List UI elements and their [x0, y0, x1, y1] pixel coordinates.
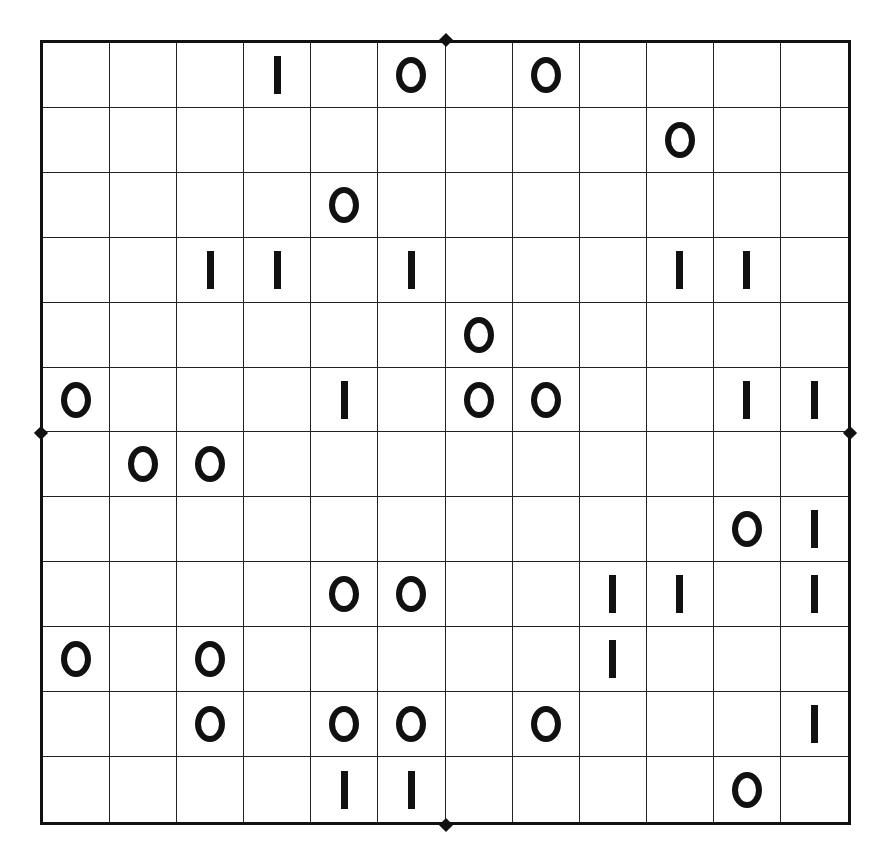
grid-cell-r2-c6[interactable] — [446, 173, 513, 238]
grid-cell-r11-c3[interactable] — [244, 757, 311, 822]
grid-cell-r11-c5[interactable] — [378, 757, 445, 822]
grid-cell-r5-c10[interactable] — [714, 368, 781, 433]
grid-cell-r8-c7[interactable] — [513, 562, 580, 627]
grid-cell-r1-c1[interactable] — [110, 108, 177, 173]
grid-cell-r0-c1[interactable] — [110, 43, 177, 108]
grid-cell-r9-c3[interactable] — [244, 627, 311, 692]
grid-cell-r1-c11[interactable] — [781, 108, 848, 173]
grid-cell-r6-c10[interactable] — [714, 432, 781, 497]
grid-cell-r11-c1[interactable] — [110, 757, 177, 822]
grid-cell-r10-c0[interactable] — [43, 692, 110, 757]
grid-cell-r8-c9[interactable] — [647, 562, 714, 627]
grid-cell-r7-c0[interactable] — [43, 497, 110, 562]
grid-cell-r9-c8[interactable] — [580, 627, 647, 692]
grid-cell-r0-c0[interactable] — [43, 43, 110, 108]
grid-cell-r8-c0[interactable] — [43, 562, 110, 627]
grid-cell-r3-c3[interactable] — [244, 238, 311, 303]
grid-cell-r0-c4[interactable] — [311, 43, 378, 108]
grid-cell-r7-c6[interactable] — [446, 497, 513, 562]
grid-cell-r4-c5[interactable] — [378, 303, 445, 368]
grid-cell-r3-c5[interactable] — [378, 238, 445, 303]
grid-cell-r4-c4[interactable] — [311, 303, 378, 368]
grid-cell-r0-c7[interactable] — [513, 43, 580, 108]
grid-cell-r10-c4[interactable] — [311, 692, 378, 757]
grid-cell-r1-c3[interactable] — [244, 108, 311, 173]
grid-cell-r6-c7[interactable] — [513, 432, 580, 497]
grid-cell-r2-c0[interactable] — [43, 173, 110, 238]
grid-cell-r10-c3[interactable] — [244, 692, 311, 757]
grid-cell-r4-c3[interactable] — [244, 303, 311, 368]
grid-cell-r6-c6[interactable] — [446, 432, 513, 497]
grid-cell-r1-c10[interactable] — [714, 108, 781, 173]
grid-cell-r3-c6[interactable] — [446, 238, 513, 303]
grid-cell-r8-c10[interactable] — [714, 562, 781, 627]
grid-cell-r10-c7[interactable] — [513, 692, 580, 757]
grid-cell-r1-c4[interactable] — [311, 108, 378, 173]
grid-cell-r10-c6[interactable] — [446, 692, 513, 757]
grid-cell-r2-c10[interactable] — [714, 173, 781, 238]
grid-cell-r4-c10[interactable] — [714, 303, 781, 368]
grid-cell-r6-c3[interactable] — [244, 432, 311, 497]
grid-cell-r9-c6[interactable] — [446, 627, 513, 692]
grid-cell-r1-c2[interactable] — [177, 108, 244, 173]
grid-cell-r5-c6[interactable] — [446, 368, 513, 433]
grid-cell-r2-c11[interactable] — [781, 173, 848, 238]
grid-cell-r5-c2[interactable] — [177, 368, 244, 433]
grid-cell-r8-c4[interactable] — [311, 562, 378, 627]
grid-cell-r9-c11[interactable] — [781, 627, 848, 692]
grid-cell-r5-c1[interactable] — [110, 368, 177, 433]
grid-cell-r5-c0[interactable] — [43, 368, 110, 433]
grid-cell-r2-c9[interactable] — [647, 173, 714, 238]
grid-cell-r0-c8[interactable] — [580, 43, 647, 108]
grid-cell-r5-c3[interactable] — [244, 368, 311, 433]
grid-cell-r4-c1[interactable] — [110, 303, 177, 368]
grid-cell-r6-c9[interactable] — [647, 432, 714, 497]
grid-cell-r11-c2[interactable] — [177, 757, 244, 822]
grid-cell-r8-c11[interactable] — [781, 562, 848, 627]
grid-cell-r7-c1[interactable] — [110, 497, 177, 562]
grid-cell-r6-c8[interactable] — [580, 432, 647, 497]
grid-cell-r9-c7[interactable] — [513, 627, 580, 692]
grid-cell-r1-c9[interactable] — [647, 108, 714, 173]
grid-cell-r2-c2[interactable] — [177, 173, 244, 238]
grid-cell-r3-c10[interactable] — [714, 238, 781, 303]
grid-cell-r11-c9[interactable] — [647, 757, 714, 822]
grid-cell-r11-c8[interactable] — [580, 757, 647, 822]
grid-cell-r10-c9[interactable] — [647, 692, 714, 757]
grid-cell-r0-c5[interactable] — [378, 43, 445, 108]
grid-cell-r10-c1[interactable] — [110, 692, 177, 757]
grid-cell-r9-c10[interactable] — [714, 627, 781, 692]
grid-cell-r2-c4[interactable] — [311, 173, 378, 238]
grid-cell-r9-c4[interactable] — [311, 627, 378, 692]
grid-cell-r2-c8[interactable] — [580, 173, 647, 238]
grid-cell-r3-c11[interactable] — [781, 238, 848, 303]
grid-cell-r3-c0[interactable] — [43, 238, 110, 303]
grid-cell-r0-c2[interactable] — [177, 43, 244, 108]
grid-cell-r11-c4[interactable] — [311, 757, 378, 822]
grid-cell-r2-c7[interactable] — [513, 173, 580, 238]
grid-cell-r3-c4[interactable] — [311, 238, 378, 303]
grid-cell-r8-c1[interactable] — [110, 562, 177, 627]
grid-cell-r10-c2[interactable] — [177, 692, 244, 757]
grid-cell-r3-c7[interactable] — [513, 238, 580, 303]
grid-cell-r0-c10[interactable] — [714, 43, 781, 108]
grid-cell-r9-c0[interactable] — [43, 627, 110, 692]
grid-cell-r11-c6[interactable] — [446, 757, 513, 822]
grid-cell-r11-c0[interactable] — [43, 757, 110, 822]
grid-cell-r5-c5[interactable] — [378, 368, 445, 433]
grid-cell-r5-c9[interactable] — [647, 368, 714, 433]
grid-cell-r3-c2[interactable] — [177, 238, 244, 303]
grid-cell-r11-c7[interactable] — [513, 757, 580, 822]
grid-cell-r10-c10[interactable] — [714, 692, 781, 757]
grid-cell-r1-c5[interactable] — [378, 108, 445, 173]
grid-cell-r1-c6[interactable] — [446, 108, 513, 173]
grid-cell-r11-c11[interactable] — [781, 757, 848, 822]
grid-cell-r4-c2[interactable] — [177, 303, 244, 368]
grid-cell-r2-c5[interactable] — [378, 173, 445, 238]
grid-cell-r6-c1[interactable] — [110, 432, 177, 497]
grid-cell-r8-c3[interactable] — [244, 562, 311, 627]
grid-cell-r1-c0[interactable] — [43, 108, 110, 173]
grid-cell-r7-c5[interactable] — [378, 497, 445, 562]
grid-cell-r4-c11[interactable] — [781, 303, 848, 368]
grid-cell-r6-c4[interactable] — [311, 432, 378, 497]
